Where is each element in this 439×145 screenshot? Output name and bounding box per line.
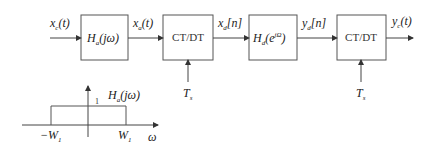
ct-dt-label-2: CT/DT xyxy=(345,31,377,43)
frequency-response-plot: Ha(jω) 1 −W1 W1 ω xyxy=(22,86,158,144)
height-label: 1 xyxy=(95,97,99,106)
ct-dt-label-1: CT/DT xyxy=(172,31,204,43)
discrete-filter-label: Hd(ejΩ) xyxy=(252,31,286,47)
omega-label: ω xyxy=(148,130,156,144)
signal-xc-label: xc(t) xyxy=(49,16,70,32)
sampling-period-label-2: Ts xyxy=(356,86,366,102)
left-tick-label: −W1 xyxy=(40,128,62,144)
signal-xa-label: xa(t) xyxy=(132,16,153,32)
signal-yc-label: yc(t) xyxy=(391,14,412,30)
right-tick-label: W1 xyxy=(118,128,132,144)
anti-alias-filter-label: Ha(jω) xyxy=(86,31,119,47)
plot-title: Ha(jω) xyxy=(107,88,140,104)
block-diagram: xc(t) Ha(jω) xa(t) CT/DT Ts xd[n] Hd(ejΩ… xyxy=(0,0,439,145)
sampling-period-label-1: Ts xyxy=(183,86,193,102)
signal-yd-label: yd[n] xyxy=(301,16,326,32)
signal-xd-label: xd[n] xyxy=(217,16,242,32)
